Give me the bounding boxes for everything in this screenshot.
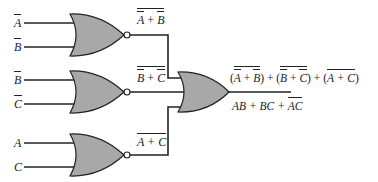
input-label-a: A <box>14 137 21 149</box>
nor3-output-label: A + C <box>137 136 166 148</box>
logic-circuit-diagram <box>0 0 378 182</box>
input-wires <box>24 23 76 167</box>
input-label-a-bar: A <box>14 17 21 29</box>
final-output-expression: (A + B) + (B + C) + (A + C) <box>230 72 359 84</box>
simplified-expression: AB + BC + AC <box>232 100 302 112</box>
input-label-c: C <box>14 161 22 173</box>
nor-gate-2 <box>70 71 130 113</box>
input-label-b-bar: B <box>14 41 21 53</box>
nor1-output-label: A + B <box>137 14 164 26</box>
or-gate-final <box>178 72 229 112</box>
input-label-b-bar-2: B <box>14 74 21 86</box>
nor-gate-1 <box>70 14 130 56</box>
nor-gate-3 <box>70 134 130 176</box>
input-label-c-bar: C <box>14 98 22 110</box>
nor2-output-label: B + C <box>137 72 165 84</box>
